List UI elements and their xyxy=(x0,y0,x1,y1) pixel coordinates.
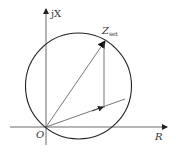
zset-label: Zset xyxy=(101,25,119,37)
impedance-arrow xyxy=(92,107,103,111)
impedance-diagram: jX R O Zset xyxy=(0,0,176,153)
x-axis-label: R xyxy=(154,131,163,142)
operating-circle xyxy=(26,33,132,139)
impedance-line xyxy=(46,99,125,127)
y-axis-label: jX xyxy=(50,8,62,19)
zset-vector xyxy=(46,41,105,127)
origin-label: O xyxy=(36,129,44,140)
